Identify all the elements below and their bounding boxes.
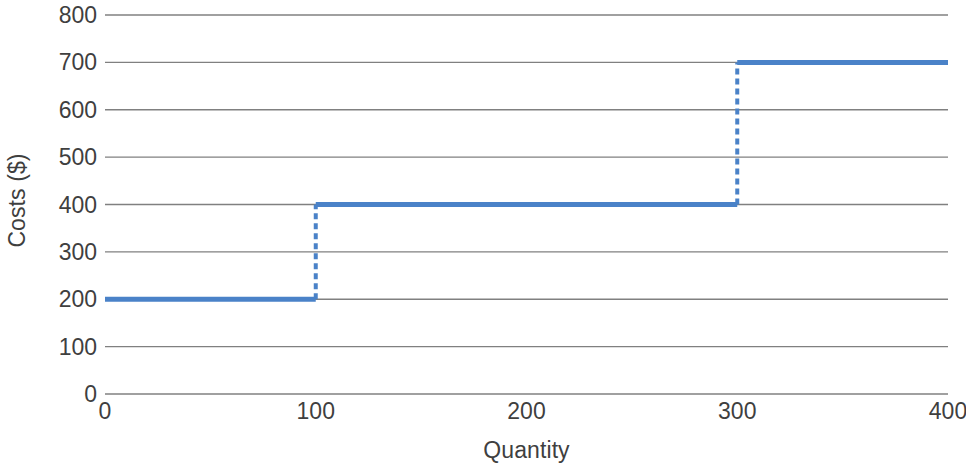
series-costs bbox=[105, 62, 948, 299]
x-axis-tick-label: 200 bbox=[507, 400, 545, 423]
x-axis-tick-label: 0 bbox=[99, 400, 112, 423]
y-axis-tick-label: 500 bbox=[37, 146, 97, 169]
x-axis-tick-label: 300 bbox=[718, 400, 756, 423]
y-axis-tick-label: 600 bbox=[37, 98, 97, 121]
x-axis-tick-label: 100 bbox=[297, 400, 335, 423]
y-axis-title-text: Costs ($) bbox=[4, 153, 31, 247]
y-axis-tick-label: 0 bbox=[37, 383, 97, 406]
y-axis-tick-label: 100 bbox=[37, 335, 97, 358]
y-axis-title: Costs ($) bbox=[0, 0, 34, 400]
y-axis-tick-label: 700 bbox=[37, 51, 97, 74]
y-axis-tick-label: 400 bbox=[37, 193, 97, 216]
plot-svg bbox=[105, 0, 948, 400]
x-axis-tick-label: 400 bbox=[929, 400, 966, 423]
y-axis-tick-labels: 0100200300400500600700800 bbox=[35, 0, 97, 470]
x-axis-title-text: Quantity bbox=[483, 437, 569, 463]
y-axis-tick-label: 200 bbox=[37, 288, 97, 311]
x-axis-title: Quantity bbox=[105, 437, 948, 464]
plot-area bbox=[105, 0, 948, 400]
y-axis-tick-label: 300 bbox=[37, 240, 97, 263]
y-axis-tick-label: 800 bbox=[37, 4, 97, 27]
step-cost-chart: Costs ($) 0100200300400500600700800 0100… bbox=[0, 0, 966, 470]
